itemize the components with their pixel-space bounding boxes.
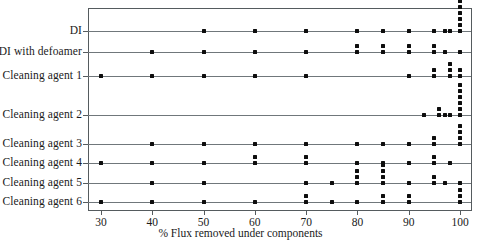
x-axis-tick [409,210,410,215]
data-point [202,29,206,33]
data-point [432,175,436,179]
data-point [422,113,426,117]
data-point [304,181,308,185]
data-point [355,175,359,179]
data-point [448,62,452,66]
data-point [407,194,411,198]
data-point [407,74,411,78]
category-row-line [88,31,471,32]
data-point [150,74,154,78]
data-point [355,169,359,173]
data-point [458,142,462,146]
data-point [304,29,308,33]
data-point [432,74,436,78]
data-point [253,142,257,146]
data-point [381,29,385,33]
x-axis-tick-label: 100 [451,217,468,229]
data-point [443,50,447,54]
data-point [202,142,206,146]
data-point [458,130,462,134]
data-point [458,5,462,9]
x-axis-tick [101,210,102,215]
data-point [355,161,359,165]
data-point [432,155,436,159]
category-label-cleaning-agent-6: Cleaning agent 6 [2,196,82,208]
data-point [432,29,436,33]
category-label-di-with-defoamer: DI with defoamer [0,46,82,58]
data-point [99,200,103,204]
data-point [304,155,308,159]
x-axis-tick [357,210,358,215]
data-point [150,161,154,165]
data-point [458,68,462,72]
data-point [437,113,441,117]
category-row-line [88,163,471,164]
data-point [253,50,257,54]
data-point [448,74,452,78]
x-axis-tick [306,210,307,215]
category-tick [83,115,88,116]
x-axis-line [88,210,471,211]
x-axis-title: % Flux removed under components [0,228,481,240]
data-point [432,68,436,72]
data-point [150,200,154,204]
x-axis-tick-label: 40 [147,217,159,229]
data-point [381,181,385,185]
data-point [304,74,308,78]
data-point [448,161,452,165]
category-row-line [88,76,471,77]
category-row-line [88,52,471,53]
data-point [458,11,462,15]
data-point [304,142,308,146]
category-tick [83,31,88,32]
data-point [381,163,385,167]
data-point [432,161,436,165]
data-point [407,50,411,54]
data-point [448,29,452,33]
data-point [458,50,462,54]
category-row-line [88,202,471,203]
category-tick [83,183,88,184]
category-tick [83,163,88,164]
data-point [202,161,206,165]
category-tick [83,52,88,53]
data-point [458,181,462,185]
data-point [355,142,359,146]
data-point [304,161,308,165]
data-point [432,142,436,146]
data-point [458,89,462,93]
data-point [458,29,462,33]
data-point [407,181,411,185]
data-point [202,181,206,185]
data-point [253,155,257,159]
data-point [355,29,359,33]
data-point [407,200,411,204]
data-point [202,50,206,54]
data-point [448,113,452,117]
data-point [99,161,103,165]
category-tick [83,202,88,203]
data-point [355,200,359,204]
data-point [381,44,385,48]
data-point [443,113,447,117]
data-point [458,200,462,204]
data-point [381,194,385,198]
data-point [458,107,462,111]
category-label-cleaning-agent-3: Cleaning agent 3 [2,138,82,150]
data-point [355,44,359,48]
data-point [458,188,462,192]
data-point [202,200,206,204]
data-point [458,23,462,27]
data-point [448,68,452,72]
x-axis-tick-label: 80 [352,217,364,229]
data-point [458,124,462,128]
data-point [432,181,436,185]
data-point [330,181,334,185]
data-point [304,50,308,54]
category-row-line [88,183,471,184]
plot-area [88,8,472,211]
x-axis-tick [255,210,256,215]
data-point [150,181,154,185]
data-point [458,113,462,117]
x-axis-tick [152,210,153,215]
